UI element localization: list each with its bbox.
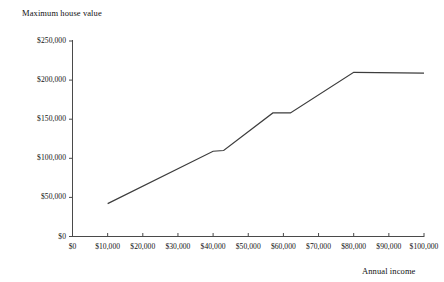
y-axis-tick-label: $250,000 bbox=[8, 36, 66, 45]
chart-container: Maximum house value Annual income $0$50,… bbox=[0, 0, 444, 282]
x-axis-tick-label: $80,000 bbox=[334, 242, 374, 251]
x-axis-tick-label: $100,000 bbox=[404, 242, 444, 251]
y-axis-tick-label: $0 bbox=[8, 232, 66, 241]
y-axis-tick-label: $150,000 bbox=[8, 114, 66, 123]
x-axis-tick-label: $30,000 bbox=[158, 242, 198, 251]
data-series-line bbox=[108, 72, 424, 203]
plot-area bbox=[0, 0, 444, 282]
x-axis-tick-label: $40,000 bbox=[193, 242, 233, 251]
x-axis-tick-label: $90,000 bbox=[369, 242, 409, 251]
x-axis-tick-label: $60,000 bbox=[263, 242, 303, 251]
x-axis-tick-label: $20,000 bbox=[123, 242, 163, 251]
axis-lines bbox=[73, 40, 425, 237]
x-axis-tick-label: $70,000 bbox=[299, 242, 339, 251]
y-axis-tick-label: $50,000 bbox=[8, 192, 66, 201]
y-axis-tick-label: $100,000 bbox=[8, 153, 66, 162]
x-axis-tick-label: $50,000 bbox=[228, 242, 268, 251]
x-axis-tick-label: $10,000 bbox=[88, 242, 128, 251]
y-axis-tick-label: $200,000 bbox=[8, 75, 66, 84]
x-axis-tick-label: $0 bbox=[53, 242, 93, 251]
